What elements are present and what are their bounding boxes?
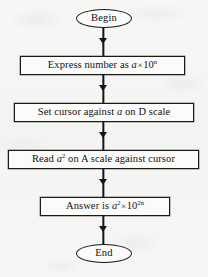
node-begin-label: Begin: [91, 13, 117, 24]
node-step3-label: Read a2 on A scale against cursor: [32, 154, 175, 165]
node-step1-label: Express number as a×10n: [48, 60, 157, 71]
step4-text-before: Answer is: [66, 200, 112, 211]
step2-text-after: on D scale: [122, 106, 170, 117]
node-step2: Set cursor against a on D scale: [14, 103, 194, 122]
node-begin: Begin: [76, 9, 132, 28]
step3-text-after: on A scale against cursor: [65, 153, 175, 164]
node-step3: Read a2 on A scale against cursor: [8, 150, 199, 169]
step3-text-before: Read: [32, 153, 57, 164]
node-end-label: End: [95, 248, 113, 259]
step1-exponent: n: [154, 58, 157, 65]
node-end: End: [76, 244, 132, 263]
node-step4: Answer is a2×102n: [40, 197, 170, 216]
step2-text-before: Set cursor against: [38, 106, 117, 117]
arrowhead-step4-end: [99, 226, 107, 232]
arrowhead-begin-step1: [99, 38, 107, 44]
step4-exponent: 2n: [137, 199, 144, 206]
node-step1: Express number as a×10n: [20, 56, 185, 75]
node-step2-label: Set cursor against a on D scale: [38, 107, 171, 118]
arrowhead-step1-step2: [99, 85, 107, 91]
step4-base: 10: [127, 200, 138, 211]
step1-base: 10: [143, 59, 154, 70]
arrowhead-step3-step4: [99, 179, 107, 185]
arrowhead-step2-step3: [99, 132, 107, 138]
flowchart-page: Begin Express number as a×10n Set cursor…: [0, 0, 208, 277]
step1-text-before: Express number as: [48, 59, 132, 70]
node-step4-label: Answer is a2×102n: [66, 201, 144, 212]
